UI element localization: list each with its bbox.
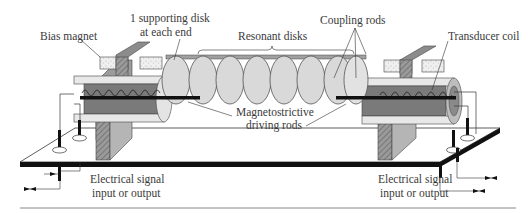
label-signal-right-2: input or output [380,187,449,200]
resonant-disk [297,56,325,104]
label-transducer-coil: Transducer coil [448,30,519,42]
label-magnetostrictive-1: Magnetostrictive [236,106,314,119]
base-plate [20,128,500,167]
label-bias-magnet: Bias magnet [40,30,98,43]
label-signal-left-1: Electrical signal [90,173,164,186]
label-coupling-rods: Coupling rods [320,14,386,27]
resonant-disk [270,56,298,104]
resonant-disk [216,56,244,104]
magnetostrictive-rods [80,96,456,100]
right-transducer-housing [362,78,462,124]
label-signal-left-2: input or output [92,187,161,200]
resonant-disk [243,56,271,104]
label-resonant-disks: Resonant disks [238,30,308,42]
label-magnetostrictive-2: driving rods [246,119,302,132]
right-bias-magnet [384,46,444,80]
mechanical-filter-diagram: Bias magnet 1 supporting disk at each en… [0,0,532,213]
label-supporting-disk-1: 1 supporting disk [130,12,210,25]
label-supporting-disk-2: at each end [140,26,192,38]
label-signal-right-1: Electrical signal [378,173,452,186]
